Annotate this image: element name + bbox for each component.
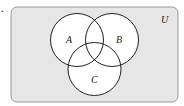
universe-label: U (161, 14, 169, 25)
set-b-label: B (116, 34, 122, 45)
set-c-label: C (91, 74, 98, 85)
venn-diagram: A B C U (0, 0, 184, 106)
set-a-label: A (65, 34, 73, 45)
